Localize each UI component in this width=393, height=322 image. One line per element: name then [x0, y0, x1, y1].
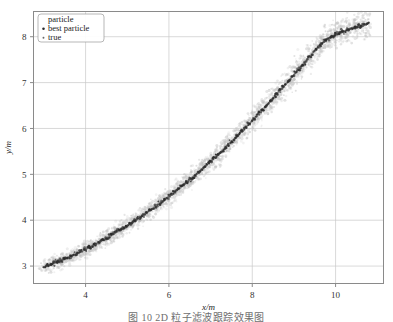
particle-point	[225, 141, 227, 143]
particle-point	[95, 250, 97, 252]
particle-point	[205, 177, 207, 179]
particle-point	[113, 224, 115, 226]
particle-point	[51, 269, 53, 271]
particle-point	[261, 120, 263, 122]
particle-point	[355, 19, 357, 21]
particle-point	[151, 200, 154, 203]
particle-point	[48, 272, 50, 274]
particle-point	[319, 54, 321, 56]
y-tick-label: 4	[22, 215, 27, 225]
particle-point	[152, 211, 154, 213]
particle-point	[206, 171, 208, 173]
best-particle-point	[210, 161, 213, 164]
particle-point	[203, 159, 206, 162]
particle-point	[248, 117, 250, 119]
particle-point	[335, 47, 338, 50]
particle-point	[279, 81, 282, 84]
particle-point	[118, 233, 121, 236]
particle-point	[236, 139, 238, 141]
particle-point	[154, 212, 157, 215]
particle-point	[350, 42, 353, 45]
particle-point	[139, 212, 141, 214]
particle-point	[354, 32, 356, 34]
particle-point	[314, 46, 316, 48]
particle-point	[95, 239, 97, 241]
best-particle-point	[233, 139, 236, 142]
particle-point	[137, 228, 139, 230]
particle-point	[310, 63, 312, 65]
particle-point	[365, 32, 367, 34]
particle-point	[260, 126, 262, 128]
particle-point	[107, 229, 109, 231]
particle-point	[314, 57, 316, 59]
particle-point	[150, 198, 152, 200]
best-particle-point	[268, 102, 270, 104]
particle-point	[302, 68, 304, 70]
best-particle-point	[276, 94, 278, 96]
particle-point	[263, 111, 265, 113]
particle-point	[258, 106, 260, 108]
particle-point	[114, 227, 116, 229]
best-particle-point	[112, 233, 115, 236]
particle-point	[291, 91, 293, 93]
particle-point	[349, 25, 351, 27]
particle-point	[299, 61, 301, 63]
particle-point	[325, 30, 327, 32]
particle-point	[118, 236, 121, 239]
particle-point	[340, 43, 342, 45]
y-tick-label: 3	[22, 261, 27, 271]
particle-point	[307, 50, 310, 53]
particle-point	[356, 37, 358, 39]
particle-point	[307, 44, 309, 46]
best-particle-point	[212, 158, 214, 160]
particle-point	[241, 121, 243, 123]
particle-point	[234, 130, 236, 132]
particle-point	[63, 265, 65, 267]
particle-point	[352, 35, 355, 38]
particle-point	[267, 96, 270, 99]
particle-point	[280, 75, 282, 77]
particle-point	[218, 163, 221, 166]
particle-point	[334, 44, 337, 47]
particle-point	[288, 84, 290, 86]
particle-point	[125, 232, 127, 234]
particle-point	[329, 46, 332, 49]
best-particle-point	[342, 30, 345, 33]
best-particle-point	[227, 145, 229, 147]
best-particle-point	[61, 261, 63, 263]
particle-point	[293, 55, 295, 57]
particle-point	[305, 65, 307, 67]
legend-label-2: true	[48, 32, 61, 42]
best-particle-point	[343, 33, 345, 35]
best-particle-point	[178, 187, 180, 189]
particle-point	[104, 247, 106, 249]
particle-point	[86, 240, 89, 243]
particle-point	[134, 216, 136, 218]
particle-point	[229, 148, 231, 150]
best-particle-point	[280, 91, 282, 93]
particle-point	[138, 224, 140, 226]
particle-point	[221, 155, 224, 158]
best-particle-point	[289, 78, 291, 80]
particle-point	[188, 186, 190, 188]
particle-point	[347, 19, 350, 22]
particle-point	[66, 247, 69, 250]
particle-point	[366, 14, 369, 17]
particle-point	[295, 80, 298, 83]
best-particle-point	[260, 112, 262, 114]
best-particle-point	[122, 228, 124, 230]
particle-point	[41, 264, 43, 266]
particle-point	[239, 126, 241, 128]
particle-point	[336, 39, 338, 41]
particle-point	[363, 28, 365, 30]
particle-point	[282, 89, 285, 92]
particle-point	[294, 66, 296, 68]
particle-point	[315, 40, 318, 43]
particle-point	[266, 112, 269, 115]
particle-point	[201, 159, 203, 161]
particle-point	[314, 61, 317, 64]
particle-point	[249, 131, 251, 133]
particle-point	[335, 22, 338, 25]
particle-point	[237, 126, 239, 128]
particle-point	[246, 137, 248, 139]
